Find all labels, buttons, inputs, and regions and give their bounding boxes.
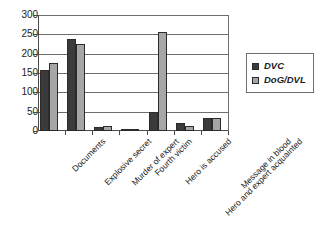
- bar-group: [119, 15, 146, 131]
- bar-dvc[interactable]: [121, 129, 130, 131]
- x-axis-category-label: Documents: [70, 137, 107, 174]
- x-axis-tick-mark: [119, 131, 120, 135]
- bar-dvc[interactable]: [40, 70, 49, 131]
- legend-label: DoG/DVL: [264, 75, 306, 85]
- bar-dog-dvl[interactable]: [185, 126, 194, 131]
- bar-group: [92, 15, 119, 131]
- y-axis: 050100150200250300: [0, 0, 38, 252]
- x-axis-category-label: Message in blood: [240, 137, 293, 190]
- bar-group: [201, 15, 228, 131]
- x-axis-tick-mark: [65, 131, 66, 135]
- legend-item[interactable]: DVC: [252, 59, 306, 73]
- bar-dog-dvl[interactable]: [212, 118, 221, 131]
- legend-label: DVC: [264, 61, 284, 71]
- bar-group: [65, 15, 92, 131]
- bar-dvc[interactable]: [67, 39, 76, 131]
- bar-dog-dvl[interactable]: [49, 63, 58, 131]
- x-axis-tick-mark: [92, 131, 93, 135]
- bar-dvc[interactable]: [203, 118, 212, 131]
- legend-item[interactable]: DoG/DVL: [252, 73, 306, 87]
- bar-dvc[interactable]: [94, 127, 103, 131]
- bar-chart: 050100150200250300 DocumentsExplosive se…: [0, 0, 319, 252]
- bar-dog-dvl[interactable]: [158, 32, 167, 131]
- bar-group: [147, 15, 174, 131]
- bar-dog-dvl[interactable]: [130, 129, 139, 131]
- x-axis-tick-mark: [147, 131, 148, 135]
- x-axis-tick-mark: [174, 131, 175, 135]
- bar-dog-dvl[interactable]: [103, 126, 112, 131]
- bar-dvc[interactable]: [149, 112, 158, 131]
- bars-layer: [38, 15, 228, 131]
- bar-group: [174, 15, 201, 131]
- x-axis-category-label: Hero and expert acquainted: [224, 137, 305, 218]
- bar-group: [38, 15, 65, 131]
- x-axis-tick-mark: [228, 131, 229, 135]
- plot-frame-right-edge: [228, 15, 229, 131]
- y-axis-tick-mark: [33, 131, 38, 132]
- legend-swatch-icon: [252, 77, 259, 84]
- bar-dog-dvl[interactable]: [76, 44, 85, 131]
- legend-swatch-icon: [252, 63, 259, 70]
- x-axis-tick-mark: [201, 131, 202, 135]
- chart-legend: DVCDoG/DVL: [246, 53, 314, 93]
- x-axis-category-label: Explosive secret: [103, 137, 153, 187]
- bar-dvc[interactable]: [176, 123, 185, 132]
